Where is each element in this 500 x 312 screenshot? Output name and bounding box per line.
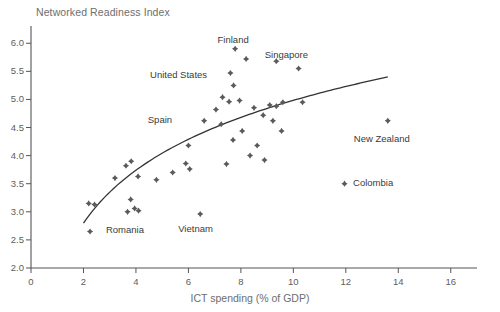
- data-point: [128, 196, 134, 202]
- data-point: [243, 56, 249, 62]
- data-point: [232, 46, 238, 52]
- data-point: [278, 128, 284, 134]
- y-tick-label: 3.5: [0, 178, 24, 189]
- x-tick-label: 6: [176, 276, 200, 287]
- data-point: [124, 209, 130, 215]
- data-point: [219, 94, 225, 100]
- data-point: [226, 99, 232, 105]
- data-point: [341, 181, 347, 187]
- trend-line: [83, 77, 387, 223]
- data-point: [385, 118, 391, 124]
- point-label-finland: Finland: [218, 34, 249, 45]
- point-label-singapore: Singapore: [265, 49, 308, 60]
- data-point: [170, 169, 176, 175]
- axis-lines: [31, 26, 477, 268]
- x-tick-label: 10: [281, 276, 305, 287]
- data-point: [230, 82, 236, 88]
- plot-area: [0, 0, 500, 312]
- y-tick-label: 2.0: [0, 262, 24, 273]
- data-point: [197, 211, 203, 217]
- data-point: [236, 97, 242, 103]
- data-point: [213, 106, 219, 112]
- data-point: [230, 137, 236, 143]
- point-label-new-zealand: New Zealand: [354, 133, 410, 144]
- y-tick-label: 6.0: [0, 37, 24, 48]
- x-axis-label: ICT spending (% of GDP): [0, 292, 500, 304]
- y-tick-label: 3.0: [0, 206, 24, 217]
- data-point: [270, 118, 276, 124]
- y-tick-label: 5.0: [0, 93, 24, 104]
- data-point: [183, 160, 189, 166]
- data-point: [185, 142, 191, 148]
- point-label-united-states: United States: [150, 69, 207, 80]
- x-tick-label: 12: [334, 276, 358, 287]
- data-point: [87, 228, 93, 234]
- x-tick-label: 8: [229, 276, 253, 287]
- data-point: [86, 200, 92, 206]
- data-point: [201, 118, 207, 124]
- data-point: [239, 128, 245, 134]
- data-point: [254, 142, 260, 148]
- data-point: [123, 163, 129, 169]
- y-tick-label: 5.5: [0, 65, 24, 76]
- data-point: [135, 173, 141, 179]
- data-point: [187, 166, 193, 172]
- data-point: [273, 103, 279, 109]
- data-point: [112, 175, 118, 181]
- data-point: [261, 157, 267, 163]
- data-point: [299, 99, 305, 105]
- y-tick-label: 4.5: [0, 122, 24, 133]
- data-point: [128, 158, 134, 164]
- data-point: [227, 70, 233, 76]
- data-point: [153, 177, 159, 183]
- y-tick-label: 4.0: [0, 150, 24, 161]
- x-tick-label: 14: [386, 276, 410, 287]
- data-point: [296, 65, 302, 71]
- x-tick-label: 2: [71, 276, 95, 287]
- data-point: [260, 112, 266, 118]
- point-label-spain: Spain: [148, 114, 172, 125]
- y-tick-label: 2.5: [0, 234, 24, 245]
- scatter-chart: Networked Readiness Index ICT spending (…: [0, 0, 500, 312]
- x-tick-label: 16: [439, 276, 463, 287]
- data-point: [247, 153, 253, 159]
- data-point: [223, 161, 229, 167]
- point-label-vietnam: Vietnam: [178, 223, 213, 234]
- point-label-romania: Romania: [106, 224, 144, 235]
- point-label-colombia: Colombia: [353, 177, 393, 188]
- x-tick-label: 4: [124, 276, 148, 287]
- x-tick-label: 0: [19, 276, 43, 287]
- data-point: [251, 105, 257, 111]
